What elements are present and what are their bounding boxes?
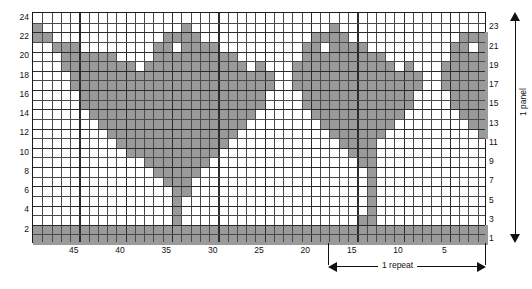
- chart-cell[interactable]: [153, 225, 163, 235]
- chart-cell[interactable]: [181, 234, 191, 244]
- chart-cell[interactable]: [339, 234, 349, 244]
- chart-cell[interactable]: [70, 42, 80, 52]
- chart-cell[interactable]: [79, 234, 89, 244]
- chart-cell[interactable]: [478, 90, 488, 100]
- chart-cell[interactable]: [153, 234, 163, 244]
- chart-cell[interactable]: [237, 119, 247, 129]
- chart-cell[interactable]: [42, 32, 52, 42]
- chart-cell[interactable]: [172, 215, 182, 225]
- chart-cell[interactable]: [302, 234, 312, 244]
- chart-cell[interactable]: [200, 157, 210, 167]
- chart-cell[interactable]: [413, 71, 423, 81]
- chart-cell[interactable]: [283, 225, 293, 235]
- chart-cell[interactable]: [385, 119, 395, 129]
- chart-cell[interactable]: [404, 234, 414, 244]
- chart-cell[interactable]: [385, 234, 395, 244]
- chart-cell[interactable]: [228, 225, 238, 235]
- chart-cell[interactable]: [209, 42, 219, 52]
- chart-cell[interactable]: [413, 234, 423, 244]
- chart-cell[interactable]: [478, 129, 488, 139]
- chart-cell[interactable]: [228, 52, 238, 62]
- chart-cell[interactable]: [255, 90, 265, 100]
- chart-cell[interactable]: [367, 206, 377, 216]
- chart-cell[interactable]: [478, 119, 488, 129]
- chart-cell[interactable]: [181, 225, 191, 235]
- chart-cell[interactable]: [441, 234, 451, 244]
- chart-cell[interactable]: [357, 234, 367, 244]
- chart-cell[interactable]: [218, 234, 228, 244]
- chart-cell[interactable]: [478, 32, 488, 42]
- chart-cell[interactable]: [357, 42, 367, 52]
- chart-cell[interactable]: [52, 225, 62, 235]
- chart-cell[interactable]: [478, 100, 488, 110]
- chart-cell[interactable]: [292, 234, 302, 244]
- chart-cell[interactable]: [394, 234, 404, 244]
- chart-cell[interactable]: [237, 225, 247, 235]
- chart-cell[interactable]: [459, 225, 469, 235]
- chart-cell[interactable]: [385, 225, 395, 235]
- chart-cell[interactable]: [200, 225, 210, 235]
- chart-cell[interactable]: [394, 109, 404, 119]
- chart-cell[interactable]: [265, 71, 275, 81]
- chart-cell[interactable]: [172, 234, 182, 244]
- chart-cell[interactable]: [367, 138, 377, 148]
- chart-cell[interactable]: [431, 234, 441, 244]
- chart-cell[interactable]: [339, 225, 349, 235]
- chart-cell[interactable]: [274, 225, 284, 235]
- chart-cell[interactable]: [367, 225, 377, 235]
- chart-cell[interactable]: [376, 234, 386, 244]
- chart-cell[interactable]: [191, 32, 201, 42]
- chart-cell[interactable]: [292, 225, 302, 235]
- chart-cell[interactable]: [274, 234, 284, 244]
- chart-cell[interactable]: [61, 234, 71, 244]
- chart-cell[interactable]: [339, 32, 349, 42]
- chart-cell[interactable]: [431, 225, 441, 235]
- chart-grid[interactable]: [32, 12, 486, 243]
- chart-cell[interactable]: [367, 157, 377, 167]
- chart-cell[interactable]: [163, 234, 173, 244]
- chart-cell[interactable]: [385, 61, 395, 71]
- chart-cell[interactable]: [422, 234, 432, 244]
- chart-cell[interactable]: [33, 23, 43, 33]
- chart-cell[interactable]: [163, 42, 173, 52]
- chart-cell[interactable]: [218, 225, 228, 235]
- chart-cell[interactable]: [394, 225, 404, 235]
- chart-cell[interactable]: [357, 225, 367, 235]
- chart-cell[interactable]: [478, 42, 488, 52]
- chart-cell[interactable]: [311, 234, 321, 244]
- chart-cell[interactable]: [144, 234, 154, 244]
- chart-cell[interactable]: [191, 167, 201, 177]
- chart-cell[interactable]: [265, 80, 275, 90]
- chart-cell[interactable]: [33, 225, 43, 235]
- chart-cell[interactable]: [404, 61, 414, 71]
- chart-cell[interactable]: [404, 90, 414, 100]
- chart-cell[interactable]: [126, 234, 136, 244]
- chart-cell[interactable]: [255, 225, 265, 235]
- chart-cell[interactable]: [320, 225, 330, 235]
- chart-cell[interactable]: [246, 109, 256, 119]
- chart-cell[interactable]: [61, 225, 71, 235]
- chart-cell[interactable]: [116, 234, 126, 244]
- chart-cell[interactable]: [441, 225, 451, 235]
- chart-cell[interactable]: [172, 225, 182, 235]
- chart-cell[interactable]: [329, 225, 339, 235]
- chart-cell[interactable]: [348, 225, 358, 235]
- chart-cell[interactable]: [459, 234, 469, 244]
- chart-cell[interactable]: [367, 234, 377, 244]
- chart-cell[interactable]: [89, 234, 99, 244]
- chart-cell[interactable]: [107, 52, 117, 62]
- chart-cell[interactable]: [144, 225, 154, 235]
- chart-cell[interactable]: [126, 225, 136, 235]
- chart-cell[interactable]: [70, 225, 80, 235]
- chart-cell[interactable]: [450, 234, 460, 244]
- chart-cell[interactable]: [172, 206, 182, 216]
- chart-cell[interactable]: [181, 23, 191, 33]
- chart-cell[interactable]: [218, 138, 228, 148]
- chart-cell[interactable]: [329, 23, 339, 33]
- chart-cell[interactable]: [191, 234, 201, 244]
- chart-cell[interactable]: [135, 225, 145, 235]
- chart-cell[interactable]: [478, 109, 488, 119]
- chart-cell[interactable]: [135, 234, 145, 244]
- chart-cell[interactable]: [116, 225, 126, 235]
- chart-cell[interactable]: [367, 177, 377, 187]
